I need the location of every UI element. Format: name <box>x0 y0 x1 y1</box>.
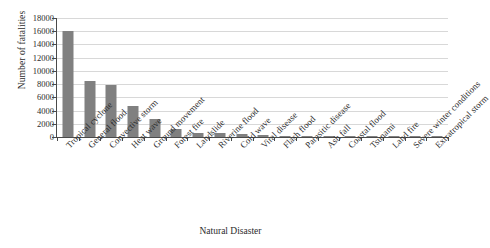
x-axis-tick-mark <box>79 137 80 141</box>
x-axis-tick-mark <box>144 137 145 141</box>
x-axis-tick-mark <box>426 137 427 141</box>
x-axis-tick-mark <box>448 137 449 141</box>
y-axis-tick-mark <box>52 18 56 19</box>
x-axis-tick-mark <box>383 137 384 141</box>
x-axis-tick-mark <box>274 137 275 141</box>
x-axis-tick-mark <box>296 137 297 141</box>
y-axis-tick-mark <box>52 97 56 98</box>
y-axis-tick-mark <box>52 58 56 59</box>
y-axis-tick-mark <box>52 137 56 138</box>
x-axis-tick-mark <box>405 137 406 141</box>
x-axis-tick-mark <box>209 137 210 141</box>
y-axis-tick-mark <box>52 71 56 72</box>
y-axis-tick-mark <box>52 84 56 85</box>
x-axis-tick-mark <box>318 137 319 141</box>
x-axis-tick-mark <box>57 137 58 141</box>
x-axis-tick-mark <box>253 137 254 141</box>
y-axis-tick-mark <box>52 124 56 125</box>
x-axis-tick-mark <box>339 137 340 141</box>
y-axis-tick-mark <box>52 31 56 32</box>
x-axis-tick-mark <box>231 137 232 141</box>
x-axis-title: Natural Disaster <box>0 226 461 236</box>
x-axis-tick-mark <box>100 137 101 141</box>
x-axis-tick-mark <box>166 137 167 141</box>
x-axis-tick-mark <box>122 137 123 141</box>
y-axis-tick-mark <box>52 111 56 112</box>
x-axis-tick-mark <box>361 137 362 141</box>
x-axis-tick-mark <box>187 137 188 141</box>
y-axis-tick-mark <box>52 44 56 45</box>
